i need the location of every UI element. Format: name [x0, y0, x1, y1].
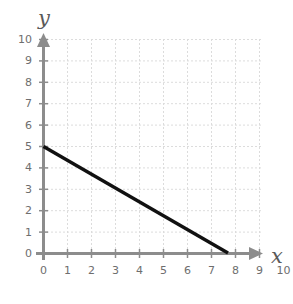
x-tick-label-1: 1	[55, 265, 81, 276]
y-axis-title: y	[38, 8, 50, 29]
x-tick-label-6: 6	[175, 265, 201, 276]
x-tick-label-2: 2	[79, 265, 105, 276]
chart-plot-area	[0, 0, 292, 304]
y-tick-label-2: 2	[8, 205, 32, 216]
x-tick-label-7: 7	[199, 265, 225, 276]
y-tick-label-3: 3	[8, 184, 32, 195]
y-tick-label-1: 1	[8, 227, 32, 238]
y-tick-label-5: 5	[8, 141, 32, 152]
x-tick-label-10: 10	[271, 265, 293, 276]
x-axis	[36, 247, 263, 260]
y-tick-label-6: 6	[8, 120, 32, 131]
x-tick-label-4: 4	[127, 265, 153, 276]
coordinate-plane-chart: y x 0 1 2 3 4 5 6 7 8 9 10 0 1 2 3 4 5 6…	[0, 0, 292, 304]
x-tick-label-3: 3	[103, 265, 129, 276]
data-line-series	[44, 147, 229, 254]
y-tick-label-8: 8	[8, 77, 32, 88]
y-tick-label-0: 0	[8, 248, 32, 259]
y-tick-label-4: 4	[8, 162, 32, 173]
y-tick-label-10: 10	[6, 34, 32, 45]
y-tick-label-9: 9	[8, 55, 32, 66]
x-tick-label-0: 0	[31, 265, 57, 276]
x-tick-label-8: 8	[223, 265, 249, 276]
x-tick-label-9: 9	[247, 265, 273, 276]
x-tick-label-5: 5	[151, 265, 177, 276]
y-tick-label-7: 7	[8, 98, 32, 109]
horizontal-gridlines	[43, 40, 262, 233]
